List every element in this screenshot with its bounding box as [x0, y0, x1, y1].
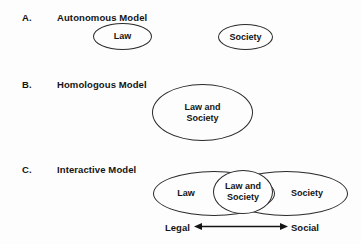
panel-letter-b: B. [22, 79, 32, 90]
ellipse-label-law-and-society-interactive: Law and Society [213, 170, 273, 214]
panel-letter-c: C. [22, 164, 32, 175]
figure-canvas: A. Autonomous Model Law Society B. Homol… [0, 0, 361, 244]
panel-title-c: Interactive Model [57, 164, 136, 175]
axis-label-social: Social [291, 222, 319, 233]
axis-label-legal: Legal [165, 222, 190, 233]
double-headed-arrow-icon [194, 221, 288, 232]
ellipse-law-and-society-homologous [152, 84, 253, 141]
ellipse-label-society-interactive: Society [276, 182, 338, 204]
ellipse-law-autonomous [93, 23, 152, 50]
ellipse-society-autonomous [218, 24, 273, 50]
panel-title-a: Autonomous Model [57, 12, 147, 23]
panel-title-b: Homologous Model [57, 79, 147, 90]
panel-letter-a: A. [22, 12, 32, 23]
ellipse-label-law-interactive: Law [160, 182, 212, 204]
